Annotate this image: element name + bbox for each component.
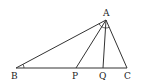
triangle-diagram: A B P Q C [0, 0, 142, 84]
label-p: P [72, 71, 78, 81]
label-q: Q [99, 71, 106, 81]
label-b: B [11, 71, 18, 81]
segment-ab [16, 20, 106, 68]
angle-b-mark [23, 64, 24, 68]
angle-a-mark-2 [102, 27, 106, 28]
angle-a-mark-1 [99, 24, 102, 27]
label-c: C [124, 71, 131, 81]
angle-a-mark-3 [106, 27, 110, 28]
segment-ap [76, 20, 106, 68]
label-a: A [102, 8, 110, 18]
